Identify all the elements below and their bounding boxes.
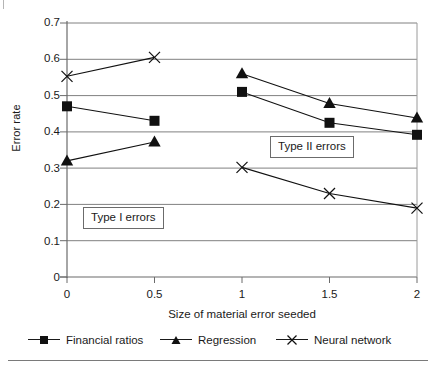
data-point-marker: [62, 101, 72, 111]
data-point-marker: [324, 188, 335, 199]
x-tick-label: 1.5: [310, 288, 350, 300]
data-point-marker: [237, 162, 248, 173]
x-tick-label: 1: [222, 288, 262, 300]
x-tick-label: 2: [397, 288, 436, 300]
y-tick-marks: [60, 23, 67, 277]
cross-marker-icon: [276, 333, 308, 347]
legend-label: Neural network: [314, 334, 391, 346]
data-point-marker: [325, 118, 335, 128]
plot-area: [0, 0, 436, 300]
legend-item-regression: Regression: [160, 330, 256, 350]
data-point-marker: [237, 87, 247, 97]
footer-divider: [8, 360, 428, 361]
chart-figure: Error rate 0.7 0.6 0.5 0.4 0.3 0.2 0.1 0: [0, 0, 436, 369]
data-point-marker: [236, 67, 248, 78]
legend-item-neural-network: Neural network: [276, 330, 391, 350]
legend-label: Financial ratios: [66, 334, 143, 346]
x-axis-title: Size of material error seeded: [67, 308, 417, 320]
chart-legend: Financial ratios Regression Neural netwo…: [0, 330, 436, 352]
x-tick-label: 0.5: [135, 288, 175, 300]
data-point-marker: [150, 116, 160, 126]
square-marker-icon: [28, 333, 60, 347]
triangle-marker-icon: [160, 333, 192, 347]
annotation-type-1-errors: Type I errors: [83, 207, 164, 229]
data-point-marker: [149, 52, 160, 63]
data-point-marker: [412, 130, 422, 140]
legend-label: Regression: [198, 334, 256, 346]
annotation-type-2-errors: Type II errors: [270, 136, 354, 158]
data-point-marker: [148, 136, 160, 147]
series-regression: [61, 67, 423, 165]
legend-item-financial-ratios: Financial ratios: [28, 330, 143, 350]
x-tick-label: 0: [47, 288, 87, 300]
x-tick-marks: [67, 277, 417, 283]
